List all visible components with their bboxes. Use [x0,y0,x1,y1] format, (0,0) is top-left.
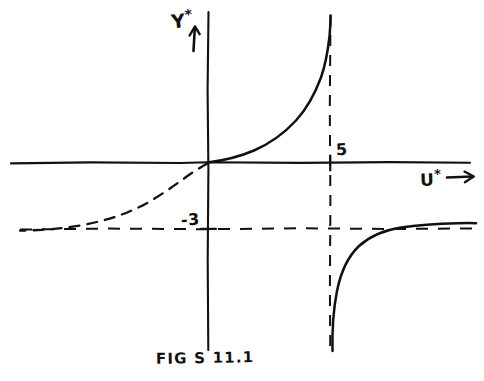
hand-drawn-plot [0,0,484,381]
y-axis-line [208,12,209,350]
curve-third-quadrant-dashed [20,164,208,231]
y-axis-label: Y* [170,7,194,31]
tick-label-horizontal-asymptote: -3 [180,211,200,228]
curve-lower-branch-solid [332,223,476,351]
horizontal-asymptote-line [20,228,476,229]
x-axis-label-superscript: * [434,167,441,182]
x-axis-arrow-icon [447,172,474,183]
x-axis-label-text: U [420,170,435,190]
x-axis-label: U* [420,168,442,189]
y-axis-arrow-icon [190,26,200,51]
y-axis-label-superscript: * [184,6,193,23]
vertical-asymptote-line [330,15,331,352]
x-axis-line [11,162,470,163]
figure-canvas: Y* U* 5 -3 FIG S 11.1 [0,0,484,381]
tick-label-vertical-asymptote: 5 [336,142,348,159]
curve-upper-branch-solid [208,16,331,163]
figure-caption: FIG S 11.1 [156,350,255,367]
